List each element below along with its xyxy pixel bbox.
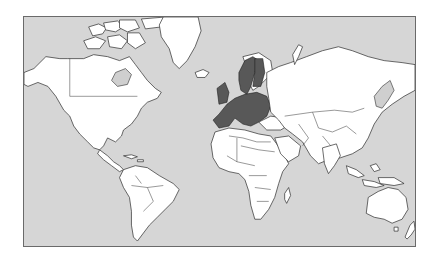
iceland	[195, 70, 209, 78]
caribbean-islands	[123, 155, 143, 162]
india	[322, 144, 340, 174]
tasmania	[394, 227, 398, 231]
greenland	[159, 17, 201, 69]
new-zealand	[405, 221, 415, 239]
australia	[366, 188, 408, 224]
southeast-asia-islands	[346, 164, 404, 188]
world-map	[23, 16, 416, 247]
canadian-arctic-islands	[84, 17, 166, 49]
south-america	[120, 166, 180, 241]
central-america	[98, 150, 124, 172]
eu-member-states	[213, 57, 271, 128]
madagascar	[285, 188, 291, 204]
eu-british-isles	[217, 82, 229, 104]
world-map-svg	[24, 17, 415, 246]
north-america	[24, 55, 161, 150]
